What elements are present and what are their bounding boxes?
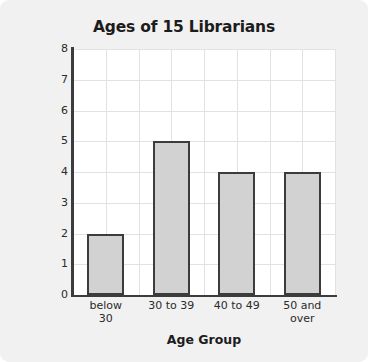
- x-axis-tick-labels: below3030 to 3940 to 4950 andover: [73, 299, 335, 331]
- bar: [87, 234, 124, 296]
- plot-area: [73, 49, 335, 295]
- y-axis-tick-labels: 876543210: [48, 0, 68, 362]
- y-tick-label: 8: [52, 42, 68, 55]
- y-tick-label: 3: [52, 196, 68, 209]
- chart-card: Ages of 15 Librarians Number of Libraria…: [0, 0, 368, 362]
- x-axis-line: [71, 295, 337, 298]
- bar: [218, 172, 255, 295]
- x-axis-title: Age Group: [73, 332, 335, 347]
- x-tick-label-line: 40 to 49: [204, 299, 270, 312]
- y-tick-label: 7: [52, 73, 68, 86]
- x-tick-label: 40 to 49: [204, 299, 270, 312]
- bar: [284, 172, 321, 295]
- x-tick-label-line: 30 to 39: [139, 299, 205, 312]
- bar: [153, 141, 190, 295]
- y-tick-label: 4: [52, 165, 68, 178]
- y-tick-label: 0: [52, 288, 68, 301]
- gridline-vertical: [335, 49, 336, 295]
- x-tick-label-line: over: [270, 312, 336, 325]
- gridline-vertical: [139, 49, 140, 295]
- y-tick-label: 5: [52, 134, 68, 147]
- y-axis-line: [71, 47, 74, 297]
- y-tick-label: 6: [52, 104, 68, 117]
- gridline-vertical: [270, 49, 271, 295]
- x-tick-label: 30 to 39: [139, 299, 205, 312]
- x-tick-label: 50 andover: [270, 299, 336, 325]
- x-tick-label-line: 30: [73, 312, 139, 325]
- x-tick-label-line: below: [73, 299, 139, 312]
- y-tick-label: 1: [52, 257, 68, 270]
- x-tick-label: below30: [73, 299, 139, 325]
- y-tick-label: 2: [52, 227, 68, 240]
- gridline-vertical: [204, 49, 205, 295]
- x-tick-label-line: 50 and: [270, 299, 336, 312]
